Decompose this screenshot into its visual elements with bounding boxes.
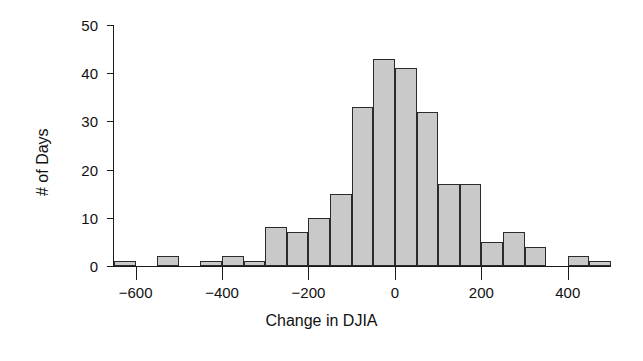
x-axis-tick-label: −400 xyxy=(205,285,239,300)
histogram-bar xyxy=(503,232,525,266)
x-axis-tick-mark xyxy=(481,266,482,280)
histogram-bar xyxy=(265,227,287,266)
plot-area xyxy=(114,25,611,266)
histogram-chart: 01020304050 −600−400−2000200400 # of Day… xyxy=(0,0,643,361)
y-axis-tick-mark xyxy=(107,218,114,219)
histogram-bar xyxy=(330,194,352,266)
histogram-bar xyxy=(114,261,136,266)
histogram-bar xyxy=(568,256,590,266)
histogram-bar xyxy=(352,107,374,266)
x-axis-tick-mark xyxy=(308,266,309,280)
y-axis-tick-label: 50 xyxy=(0,18,98,33)
histogram-bar xyxy=(244,261,266,266)
histogram-bar xyxy=(157,256,179,266)
histogram-bar xyxy=(589,261,611,266)
x-axis-line xyxy=(113,266,611,267)
y-axis-tick-label: 10 xyxy=(0,210,98,225)
y-axis-tick-label: 30 xyxy=(0,114,98,129)
histogram-bar xyxy=(438,184,460,266)
histogram-bar xyxy=(417,112,439,266)
x-axis-tick-mark xyxy=(568,266,569,280)
y-axis-title: # of Days xyxy=(34,128,52,196)
x-axis-tick-label: 0 xyxy=(391,285,399,300)
histogram-bar xyxy=(308,218,330,266)
y-axis-tick-mark xyxy=(107,121,114,122)
histogram-bar xyxy=(222,256,244,266)
x-axis-tick-label: 200 xyxy=(469,285,494,300)
x-axis-title: Change in DJIA xyxy=(0,312,643,330)
histogram-bar xyxy=(481,242,503,266)
y-axis-tick-label: 40 xyxy=(0,66,98,81)
histogram-bar xyxy=(525,247,547,266)
x-axis-tick-label: −200 xyxy=(292,285,326,300)
x-axis-tick-label: 400 xyxy=(555,285,580,300)
y-axis-tick-label: 0 xyxy=(0,259,98,274)
x-axis-tick-mark xyxy=(222,266,223,280)
histogram-bar xyxy=(395,68,417,266)
x-axis-tick-mark xyxy=(136,266,137,280)
x-axis-tick-mark xyxy=(395,266,396,280)
y-axis-tick-mark xyxy=(107,170,114,171)
x-axis-tick-label: −600 xyxy=(119,285,153,300)
histogram-bar xyxy=(373,59,395,266)
y-axis-tick-mark xyxy=(107,266,114,267)
y-axis-tick-mark xyxy=(107,73,114,74)
histogram-bar xyxy=(200,261,222,266)
y-axis-tick-mark xyxy=(107,25,114,26)
histogram-bar xyxy=(287,232,309,266)
histogram-bar xyxy=(460,184,482,266)
